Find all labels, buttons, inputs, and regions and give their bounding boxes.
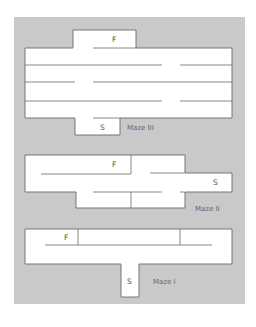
maze-1-finish-label: F: [64, 233, 68, 242]
maze-3-finish-label: F: [112, 35, 116, 44]
maze-2-caption: Maze II: [195, 205, 220, 213]
maze-1: F S Maze I: [25, 229, 232, 297]
maze-3: F S Maze III: [25, 30, 232, 135]
maze-2-finish-label: F: [112, 160, 116, 169]
maze-3-start-label: S: [100, 123, 105, 132]
maze-2-start-label: S: [213, 178, 218, 187]
maze-2: F S Maze II: [25, 155, 232, 213]
maze-1-start-label: S: [127, 277, 132, 286]
maze-1-caption: Maze I: [153, 278, 176, 286]
maze-3-caption: Maze III: [127, 124, 154, 132]
maze-diagrams: F S Maze III F S Maze II: [0, 0, 256, 327]
